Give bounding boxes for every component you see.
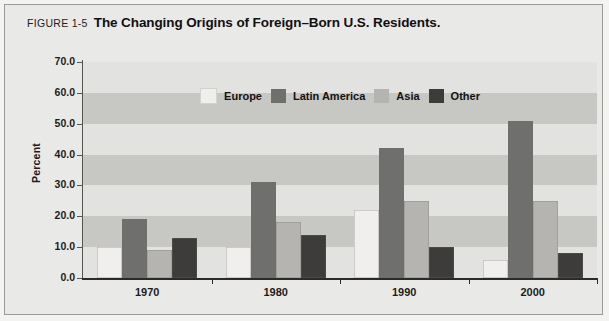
bar-1970-asia [147, 250, 172, 278]
legend-swatch-icon [429, 89, 444, 103]
legend-entry-europe[interactable]: Europe [200, 88, 262, 104]
x-axis-tick-mark [212, 279, 213, 284]
y-axis-tick-label: 0.0 [29, 271, 75, 283]
y-axis-tick-mark [77, 278, 82, 279]
bar-1980-europe [226, 247, 251, 278]
y-axis-tick-mark [77, 155, 82, 156]
bar-2000-other [558, 253, 583, 278]
legend-entry-asia[interactable]: Asia [374, 89, 419, 103]
y-axis-tick-mark [77, 124, 82, 125]
x-axis-tick-label: 1980 [236, 286, 316, 298]
y-axis-tick-mark [77, 185, 82, 186]
legend-entry-latin-america[interactable]: Latin America [271, 89, 365, 103]
y-axis-tick-label: 10.0 [29, 240, 75, 252]
x-axis-tick-mark [340, 279, 341, 284]
y-axis-tick-label: 20.0 [29, 209, 75, 221]
bar-1970-europe [97, 247, 122, 278]
bar-1980-other [301, 235, 326, 278]
legend-entry-other[interactable]: Other [429, 89, 480, 103]
y-axis-tick-label: 50.0 [29, 117, 75, 129]
x-axis-tick-label: 1970 [107, 286, 187, 298]
x-axis-tick-label: 1990 [364, 286, 444, 298]
legend-label: Europe [224, 90, 262, 102]
y-axis-tick-label: 30.0 [29, 178, 75, 190]
bar-1990-asia [404, 201, 429, 278]
y-axis-tick-mark [77, 93, 82, 94]
legend-label: Asia [396, 90, 419, 102]
y-axis-tick-mark [77, 62, 82, 63]
bar-1990-other [429, 247, 454, 278]
y-axis-tick-mark [77, 216, 82, 217]
bar-2000-asia [533, 201, 558, 278]
chart-legend: EuropeLatin AmericaAsiaOther [83, 87, 597, 105]
bar-1980-latin-america [251, 182, 276, 278]
figure-caption: FIGURE 1-5 The Changing Origins of Forei… [27, 15, 440, 30]
bar-1970-latin-america [122, 219, 147, 278]
legend-swatch-icon [200, 88, 217, 104]
bar-1970-other [172, 238, 197, 278]
figure-number: FIGURE 1-5 [27, 17, 88, 29]
figure-panel: FIGURE 1-5 The Changing Origins of Forei… [4, 4, 603, 315]
legend-swatch-icon [374, 89, 389, 103]
legend-swatch-icon [271, 89, 286, 103]
bar-1980-asia [276, 222, 301, 278]
x-axis-tick-mark [597, 279, 598, 284]
bar-2000-latin-america [508, 121, 533, 278]
legend-label: Other [451, 90, 480, 102]
y-axis-tick-label: 70.0 [29, 55, 75, 67]
x-axis-tick-mark [469, 279, 470, 284]
y-axis-tick-label: 40.0 [29, 148, 75, 160]
bar-1990-europe [354, 210, 379, 278]
figure-title: The Changing Origins of Foreign–Born U.S… [94, 15, 441, 30]
bar-2000-europe [483, 260, 508, 279]
x-axis-tick-label: 2000 [493, 286, 573, 298]
y-axis-tick-label: 60.0 [29, 86, 75, 98]
legend-label: Latin America [293, 90, 365, 102]
y-axis-title: Percent [30, 123, 42, 203]
y-axis-tick-mark [77, 247, 82, 248]
bar-1990-latin-america [379, 148, 404, 278]
